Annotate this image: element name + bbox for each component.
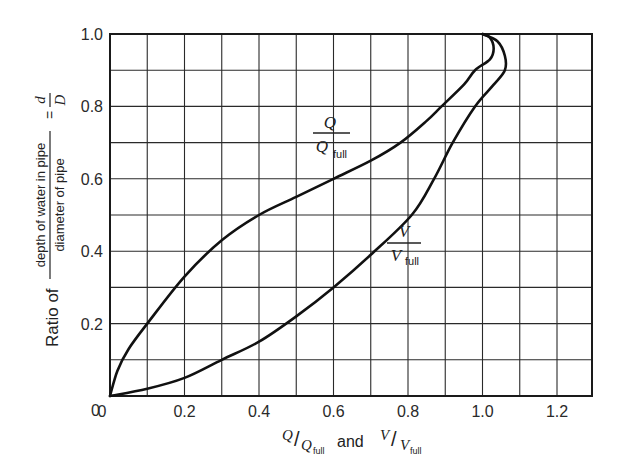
x-axis-label: Q / Q full and V / V full <box>282 427 422 456</box>
svg-text:V: V <box>391 246 404 265</box>
svg-text:Q: Q <box>301 437 312 453</box>
svg-text:=: = <box>42 111 58 119</box>
svg-text:depth of water in pipe: depth of water in pipe <box>33 143 48 267</box>
x-tick-label: 1.0 <box>471 403 493 420</box>
v-curve-label: V V full <box>387 222 421 267</box>
svg-text:d: d <box>32 96 48 104</box>
y-axis-label: Ratio of depth of water in pipe diameter… <box>32 93 68 347</box>
x-axis-ticks: 00.20.40.60.81.01.2 <box>98 403 569 420</box>
svg-text:V: V <box>380 427 391 443</box>
svg-text:V: V <box>399 222 412 241</box>
svg-text:/: / <box>391 428 397 450</box>
x-tick-label: 1.2 <box>546 403 568 420</box>
svg-text:and: and <box>337 433 364 450</box>
svg-text:full: full <box>410 446 422 456</box>
y-tick-label: 0.4 <box>81 243 103 260</box>
y-axis-ticks: 00.20.40.60.81.0 <box>81 26 103 419</box>
svg-text:Q: Q <box>316 137 328 156</box>
x-tick-label: 0.8 <box>397 403 419 420</box>
y-tick-label: 0.8 <box>81 98 103 115</box>
svg-text:Ratio of: Ratio of <box>43 288 62 347</box>
svg-text:Q: Q <box>282 427 293 443</box>
svg-text:full: full <box>333 148 347 160</box>
chart: 00.20.40.60.81.01.2 00.20.40.60.81.0 Q Q… <box>0 0 622 469</box>
y-tick-label: 0.2 <box>81 316 103 333</box>
svg-text:full: full <box>405 255 419 267</box>
svg-text:diameter of pipe: diameter of pipe <box>52 158 67 251</box>
grid-lines <box>110 34 592 396</box>
y-tick-label: 0.6 <box>81 171 103 188</box>
svg-text:full: full <box>313 446 325 456</box>
y-tick-label: 0 <box>91 402 100 419</box>
svg-text:/: / <box>294 428 300 450</box>
x-tick-label: 0.2 <box>173 403 195 420</box>
svg-text:Q: Q <box>324 113 336 132</box>
q-curve-label: Q Q full <box>313 113 350 160</box>
svg-text:D: D <box>52 94 68 106</box>
x-tick-label: 0.6 <box>322 403 344 420</box>
x-tick-label: 0.4 <box>248 403 270 420</box>
y-tick-label: 1.0 <box>81 26 103 43</box>
